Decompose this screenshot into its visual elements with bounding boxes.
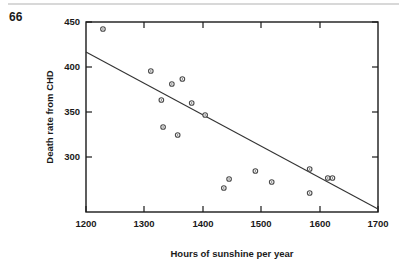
data-point-group [101,27,335,196]
x-tick-label: 1400 [183,218,223,229]
data-point-center [102,28,103,29]
x-axis-ticks [86,22,378,212]
y-tick-label: 450 [50,16,80,27]
plot-frame [86,22,378,212]
x-tick-label: 1300 [124,218,164,229]
data-point-center [161,99,162,100]
data-point-center [327,177,328,178]
x-tick-label: 1500 [241,218,281,229]
data-point-center [309,168,310,169]
data-point-center [332,177,333,178]
data-point-center [177,134,178,135]
data-point-center [182,78,183,79]
data-point-center [171,83,172,84]
document-page: 66 [0,0,407,267]
data-point-center [162,126,163,127]
scatter-plot-figure: 450 400 350 300 1200 1300 1400 1500 1600… [0,0,407,267]
data-point-center [204,114,205,115]
regression-trend-line [86,52,378,209]
data-point-center [228,178,229,179]
data-point-center [223,187,224,188]
x-tick-label: 1600 [300,218,340,229]
data-point-center [150,70,151,71]
x-axis-label-container: Hours of sunshine per year [86,243,378,261]
data-point-center [191,102,192,103]
x-axis-label: Hours of sunshine per year [170,248,293,259]
y-axis-label: Death rate from CHD [44,70,55,163]
y-axis-label-container: Death rate from CHD [39,52,57,182]
x-tick-label: 1200 [66,218,106,229]
data-point-center [255,170,256,171]
x-tick-label: 1700 [358,218,398,229]
y-axis-ticks [86,22,378,157]
data-point-center [309,192,310,193]
data-point-center [271,181,272,182]
